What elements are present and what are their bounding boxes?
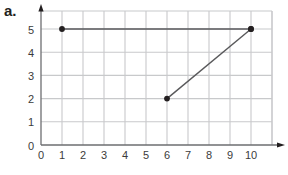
x-tick-label: 7 <box>185 149 191 161</box>
y-tick-label: 0 <box>28 140 34 152</box>
coordinate-plane-chart: 012345678910 012345 <box>0 0 288 175</box>
data-series-group <box>62 29 251 99</box>
x-tick-label: 8 <box>206 149 212 161</box>
gridlines-group <box>41 11 272 145</box>
y-axis-arrowhead-icon <box>38 4 43 12</box>
x-tick-label: 0 <box>38 149 44 161</box>
y-tick-label: 1 <box>28 116 34 128</box>
x-tick-label: 1 <box>59 149 65 161</box>
x-tick-label: 5 <box>143 149 149 161</box>
x-tick-label: 3 <box>101 149 107 161</box>
y-tick-label: 4 <box>28 47 34 59</box>
x-tick-label: 6 <box>164 149 170 161</box>
y-tick-label: 3 <box>28 70 34 82</box>
y-tick-label: 2 <box>28 93 34 105</box>
y-axis-tick-labels: 012345 <box>28 24 34 152</box>
x-tick-label: 2 <box>80 149 86 161</box>
x-tick-label: 10 <box>245 149 257 161</box>
figure-container: a. 012345678910 012345 <box>0 0 288 175</box>
x-tick-label: 9 <box>227 149 233 161</box>
data-point-markers-group <box>59 26 254 101</box>
x-tick-label: 4 <box>122 149 128 161</box>
x-axis-arrowhead-icon <box>277 142 285 147</box>
data-point-marker <box>248 26 254 32</box>
data-point-marker <box>164 96 170 102</box>
x-axis-tick-labels: 012345678910 <box>38 149 257 161</box>
y-tick-label: 5 <box>28 24 34 36</box>
data-point-marker <box>59 26 65 32</box>
